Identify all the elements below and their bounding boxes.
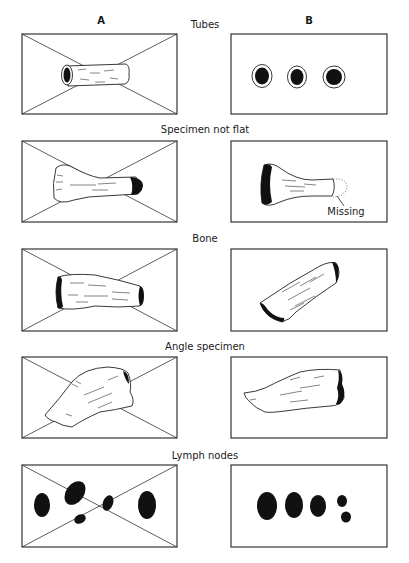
lymph-node xyxy=(138,491,156,519)
panel-b-angle-specimen xyxy=(231,357,387,438)
tube-cross-section-2 xyxy=(288,66,307,88)
panel-b-lymph-nodes xyxy=(231,465,387,547)
lymph-node xyxy=(257,492,277,520)
row-title-bone: Bone xyxy=(192,233,217,244)
panel-b-bone xyxy=(231,249,387,331)
panel-a-lymph-nodes xyxy=(22,465,177,547)
missing-annotation: Missing xyxy=(327,206,364,217)
panel-a-angle-specimen xyxy=(22,357,177,438)
lymph-node xyxy=(34,493,50,517)
lymph-node xyxy=(341,512,351,523)
lymph-node xyxy=(310,495,326,517)
panel-b-tubes xyxy=(231,34,387,114)
column-b-header: B xyxy=(305,15,313,26)
specimen-placement-diagram: A B Tubes Specimen not flat xyxy=(0,0,409,563)
panel-a-bone xyxy=(22,249,177,331)
tube-specimen-drawing xyxy=(62,64,130,86)
lymph-node xyxy=(337,495,347,507)
tube-cross-section-1 xyxy=(252,65,272,88)
panel-b-specimen-not-flat: Missing xyxy=(231,141,387,222)
panel-a-tubes xyxy=(22,34,177,114)
row-title-tubes: Tubes xyxy=(190,19,220,30)
column-a-header: A xyxy=(97,15,105,26)
row-title-angle-specimen: Angle specimen xyxy=(165,341,245,352)
tube-cross-section-3 xyxy=(323,66,345,88)
row-title-specimen-not-flat: Specimen not flat xyxy=(161,124,250,135)
row-title-lymph-nodes: Lymph nodes xyxy=(172,450,238,461)
panel-a-specimen-not-flat xyxy=(22,141,177,222)
lymph-node xyxy=(285,492,303,518)
